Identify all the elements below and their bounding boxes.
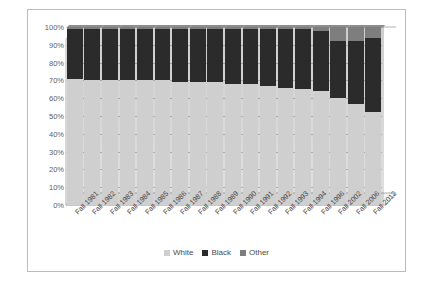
y-axis: 100%90%80%70%60%50%40%30%20%10%0% [28, 27, 64, 205]
y-axis-tick-label: 30% [30, 147, 64, 156]
bar-segment-black[interactable] [260, 29, 276, 86]
legend-swatch [240, 250, 246, 256]
chart-frame: 100%90%80%70%60%50%40%30%20%10%0% Fall 1… [27, 9, 406, 272]
bar-column[interactable] [190, 27, 206, 205]
legend-label: Other [249, 248, 269, 257]
y-axis-tick-label: 10% [30, 183, 64, 192]
bar-column[interactable] [330, 27, 346, 205]
bar-column[interactable] [207, 27, 223, 205]
bar-column[interactable] [313, 27, 329, 205]
bar-top-cap [365, 25, 386, 27]
bar-segment-black[interactable] [278, 29, 294, 88]
bar-segment-white[interactable] [67, 79, 83, 205]
bar-segment-white[interactable] [243, 84, 259, 205]
bar-column[interactable] [172, 27, 188, 205]
bar-column[interactable] [243, 27, 259, 205]
bar-column[interactable] [278, 27, 294, 205]
bar-column[interactable] [225, 27, 241, 205]
bar-segment-other[interactable] [365, 27, 381, 38]
legend-item[interactable]: Other [240, 248, 269, 257]
bar-segment-black[interactable] [137, 29, 153, 81]
bar-column[interactable] [365, 27, 381, 205]
bar-segment-black[interactable] [365, 38, 381, 113]
bar-column[interactable] [295, 27, 311, 205]
bar-segment-black[interactable] [190, 29, 206, 82]
y-axis-tick-label: 40% [30, 129, 64, 138]
y-axis-tick-label: 20% [30, 165, 64, 174]
legend-label: White [173, 248, 193, 257]
y-axis-tick-label: 90% [30, 40, 64, 49]
legend-label: Black [211, 248, 231, 257]
bar-segment-other[interactable] [348, 27, 364, 41]
bar-column[interactable] [348, 27, 364, 205]
bar-segment-black[interactable] [295, 29, 311, 90]
y-axis-tick-label: 100% [30, 23, 64, 32]
bar-segment-white[interactable] [84, 80, 100, 205]
bar-segment-black[interactable] [172, 29, 188, 82]
bar-segment-white[interactable] [313, 91, 329, 205]
y-axis-tick-label: 70% [30, 76, 64, 85]
bar-segment-white[interactable] [190, 82, 206, 205]
bar-column[interactable] [137, 27, 153, 205]
bar-segment-black[interactable] [243, 29, 259, 84]
bar-group [66, 27, 382, 205]
bar-segment-other[interactable] [330, 27, 346, 41]
bar-segment-black[interactable] [102, 29, 118, 81]
bar-segment-black[interactable] [120, 29, 136, 81]
bar-column[interactable] [120, 27, 136, 205]
y-axis-tick-label: 60% [30, 94, 64, 103]
chart-legend: WhiteBlackOther [28, 248, 405, 257]
bar-segment-black[interactable] [84, 29, 100, 81]
bar-segment-white[interactable] [260, 86, 276, 205]
bar-segment-black[interactable] [67, 29, 83, 79]
bar-segment-black[interactable] [330, 41, 346, 98]
bar-segment-white[interactable] [172, 82, 188, 205]
bar-segment-white[interactable] [102, 80, 118, 205]
bar-column[interactable] [260, 27, 276, 205]
bar-segment-white[interactable] [155, 80, 171, 205]
bar-segment-white[interactable] [278, 88, 294, 205]
plot-area [66, 27, 382, 205]
y-axis-tick-label: 50% [30, 112, 64, 121]
legend-swatch [202, 250, 208, 256]
bar-column[interactable] [102, 27, 118, 205]
legend-item[interactable]: Black [202, 248, 231, 257]
bar-segment-white[interactable] [295, 89, 311, 205]
bar-segment-black[interactable] [155, 29, 171, 81]
y-axis-tick-label: 0% [30, 201, 64, 210]
bar-segment-black[interactable] [207, 29, 223, 82]
bar-column[interactable] [67, 27, 83, 205]
bar-segment-black[interactable] [313, 31, 329, 92]
bar-segment-white[interactable] [225, 84, 241, 205]
bar-column[interactable] [84, 27, 100, 205]
y-axis-tick-label: 80% [30, 58, 64, 67]
bar-segment-white[interactable] [207, 82, 223, 205]
legend-swatch [164, 250, 170, 256]
bar-segment-white[interactable] [137, 80, 153, 205]
bar-segment-black[interactable] [225, 29, 241, 84]
bar-column[interactable] [155, 27, 171, 205]
legend-item[interactable]: White [164, 248, 193, 257]
bar-segment-white[interactable] [120, 80, 136, 205]
bar-segment-black[interactable] [348, 41, 364, 103]
